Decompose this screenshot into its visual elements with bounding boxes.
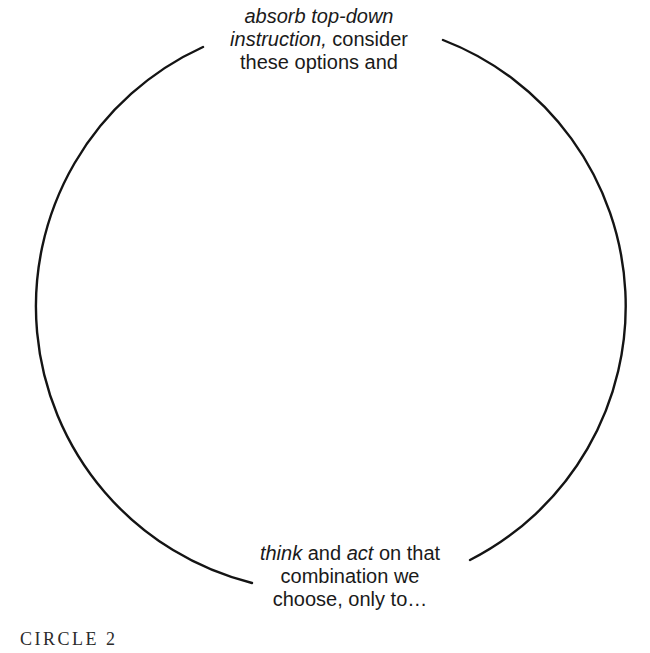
top-label-line-3-regular: these options and: [240, 51, 398, 73]
bottom-label-line-1-italic-think: think: [260, 542, 302, 564]
figure-page: absorb top-down instruction, consider th…: [0, 0, 650, 653]
bottom-label-line-3: choose, only to…: [260, 588, 440, 611]
top-label-line-2: instruction, consider: [230, 28, 408, 51]
top-label-line-2-italic: instruction,: [230, 28, 327, 50]
bottom-label-line-1-regular-and: and: [302, 542, 346, 564]
bottom-label-line-2-regular: combination we: [281, 565, 420, 587]
figure-caption: CIRCLE 2: [20, 629, 118, 650]
top-label-line-3: these options and: [230, 51, 408, 74]
top-label-line-1-italic: absorb top-down: [245, 5, 394, 27]
bottom-label-line-3-regular: choose, only to…: [273, 588, 428, 610]
bottom-label-line-2: combination we: [260, 565, 440, 588]
top-label: absorb top-down instruction, consider th…: [230, 5, 408, 74]
bottom-label-line-1-italic-act: act: [347, 542, 374, 564]
bottom-label-line-1: think and act on that: [260, 542, 440, 565]
top-label-line-2-regular: consider: [327, 28, 408, 50]
bottom-label: think and act on that combination we cho…: [260, 542, 440, 611]
circle-arc-right: [443, 40, 626, 560]
top-label-line-1: absorb top-down: [230, 5, 408, 28]
bottom-label-line-1-regular-onthat: on that: [373, 542, 440, 564]
circle-arc-left: [36, 47, 252, 583]
